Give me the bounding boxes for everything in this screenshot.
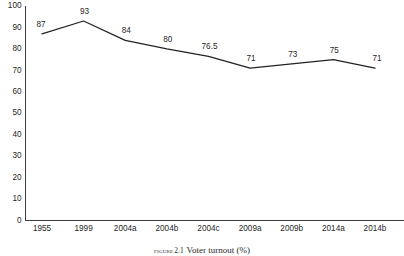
x-tick-2009a: 2009a	[239, 224, 262, 233]
caption-text: Voter turnout (%)	[187, 245, 250, 255]
y-tick-80: 80	[12, 44, 22, 53]
data-label-1955: 87	[36, 20, 46, 29]
caption-lead: FIGURE	[154, 246, 173, 255]
data-label-2004c: 76.5	[202, 42, 218, 51]
figure-caption: FIGURE2.1Voter turnout (%)	[0, 245, 404, 255]
x-tick-2004b: 2004b	[155, 224, 178, 233]
chart-background	[0, 0, 404, 256]
x-tick-2014a: 2014a	[322, 224, 345, 233]
data-label-2009b: 73	[288, 50, 298, 59]
y-tick-10: 10	[12, 194, 22, 203]
figure-container: 0102030405060708090100 8793848076.571737…	[0, 0, 404, 256]
y-tick-60: 60	[12, 87, 22, 96]
x-tick-1999: 1999	[75, 224, 94, 233]
data-label-2004b: 80	[163, 35, 173, 44]
y-tick-100: 100	[8, 1, 22, 10]
y-tick-50: 50	[12, 108, 22, 117]
y-tick-20: 20	[12, 173, 22, 182]
y-tick-30: 30	[12, 151, 22, 160]
data-label-2004a: 84	[122, 26, 132, 35]
y-tick-40: 40	[12, 130, 22, 139]
x-tick-1955: 1955	[33, 224, 52, 233]
x-tick-2004a: 2004a	[114, 224, 137, 233]
line-chart: 0102030405060708090100 8793848076.571737…	[0, 0, 404, 256]
data-label-2009a: 71	[247, 54, 257, 63]
data-label-1999: 93	[80, 7, 90, 16]
x-tick-2009b: 2009b	[280, 224, 303, 233]
x-axis-tick-labels: 195519992004a2004b2004c2009a2009b2014a20…	[33, 224, 387, 233]
y-tick-0: 0	[17, 216, 22, 225]
y-tick-70: 70	[12, 66, 22, 75]
x-tick-2014b: 2014b	[364, 224, 387, 233]
data-label-2014a: 75	[330, 46, 340, 55]
x-tick-2004c: 2004c	[197, 224, 219, 233]
caption-number: 2.1	[174, 246, 183, 255]
data-label-2014b: 71	[372, 54, 382, 63]
y-tick-90: 90	[12, 23, 22, 32]
